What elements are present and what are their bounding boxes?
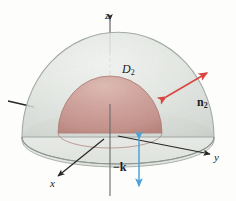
vector-label-n2-subscript: 2 — [204, 101, 208, 110]
surface-label-d2: D2 — [122, 63, 135, 77]
axis-label-x: x — [50, 178, 55, 189]
vector-label-minus-k: −k — [113, 161, 127, 173]
figure-canvas: z y x D2 n2 −k — [0, 0, 236, 201]
vector-label-n2-base: n — [197, 95, 204, 109]
vector-label-n2: n2 — [197, 96, 208, 110]
axis-label-y: y — [214, 152, 219, 163]
surface-label-d2-subscript: 2 — [131, 68, 135, 77]
axis-label-z: z — [105, 10, 109, 21]
surface-label-d2-base: D — [122, 62, 131, 76]
